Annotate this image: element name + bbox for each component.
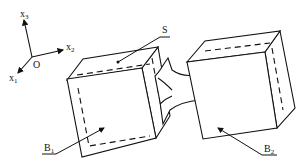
origin-label: O [33,59,40,70]
block-b1 [67,47,170,157]
x3-axis [24,20,32,57]
x2-label: x2 [66,41,75,54]
coordinate-axes [18,20,63,73]
x1-axis [18,57,32,73]
label-b1: B1 [44,142,55,155]
b2-front-face [187,52,277,139]
s-point [117,61,120,64]
x1-label: x1 [9,72,18,85]
label-s: S [162,24,168,35]
b1-front-face [67,68,156,157]
diagram-canvas: x3 x2 x1 O S B1 B2 [0,0,302,167]
block-b2 [187,31,295,139]
x2-axis [32,50,63,57]
label-b2: B2 [264,143,275,156]
x3-label: x3 [20,8,29,21]
